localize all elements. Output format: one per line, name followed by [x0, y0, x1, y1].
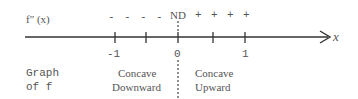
sign-chart-diagram: f" (x) - - - - ND + + + + x -1 0 1 Graph… [0, 0, 358, 99]
positive-sign: + [227, 9, 234, 21]
tick-label-neg1: -1 [107, 48, 120, 60]
concave-down-line2: Downward [112, 81, 161, 93]
tick-label-0: 0 [174, 48, 181, 60]
concave-up-line2: Upward [195, 81, 230, 93]
positive-sign: + [211, 9, 218, 21]
graph-label-line2: of f [26, 81, 52, 93]
positive-sign: + [243, 9, 250, 21]
second-derivative-label: f" (x) [26, 13, 50, 25]
positive-sign: + [195, 9, 202, 21]
concave-down-line1: Concave [118, 67, 156, 79]
graph-label-line1: Graph [26, 67, 59, 79]
negative-sign: - [108, 11, 115, 23]
tick-label-1: 1 [242, 48, 249, 60]
not-defined-label: ND [170, 9, 186, 21]
negative-sign: - [140, 11, 147, 23]
concave-up-line1: Concave [195, 67, 233, 79]
x-axis-label: x [333, 31, 339, 43]
negative-sign: - [156, 11, 163, 23]
negative-sign: - [124, 11, 131, 23]
